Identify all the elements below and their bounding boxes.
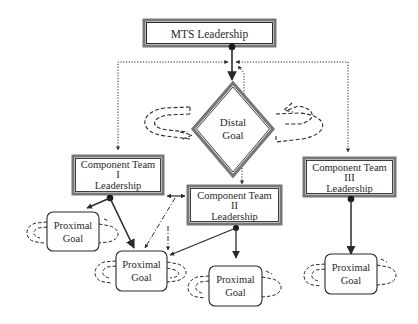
pg1-line2: Goal [63,233,83,244]
pg3-line2: Goal [225,287,245,298]
mts-leadership-node: MTS Leadership [144,20,275,46]
team2-line2: II [231,200,238,211]
component-team-2-node: Component Team II Leadership [188,186,281,224]
component-team-3-node: Component Team III Leadership [304,158,395,196]
team3-line3: Leadership [326,183,373,194]
pg1-line1: Proximal [54,220,93,231]
cross-team-dashdot-arrows [145,198,175,250]
distal-goal-line2: Goal [222,129,243,141]
team3-line2: III [344,172,355,183]
proximal-goal-1-node: Proximal Goal [47,212,99,251]
pg4-line2: Goal [341,275,361,286]
team1-line2: I [116,169,120,180]
pg4-line1: Proximal [332,262,371,273]
pg2-line1: Proximal [122,259,161,270]
proximal-goal-2-node: Proximal Goal [116,251,167,291]
proximal-goal-3-node: Proximal Goal [209,266,262,306]
distal-goal-line1: Distal [220,116,246,128]
mts-leadership-label: MTS Leadership [171,28,249,41]
pg3-line1: Proximal [216,274,255,285]
team1-line3: Leadership [95,180,142,191]
proximal-goal-4-node: Proximal Goal [325,254,377,294]
distal-goal-node: Distal Goal [193,83,273,176]
team2-line3: Leadership [211,211,258,222]
mts-leadership-diagram: MTS Leadership Distal Goal Component Tea… [0,0,418,324]
pg2-line2: Goal [131,272,151,283]
component-team-1-node: Component Team I Leadership [73,156,163,194]
